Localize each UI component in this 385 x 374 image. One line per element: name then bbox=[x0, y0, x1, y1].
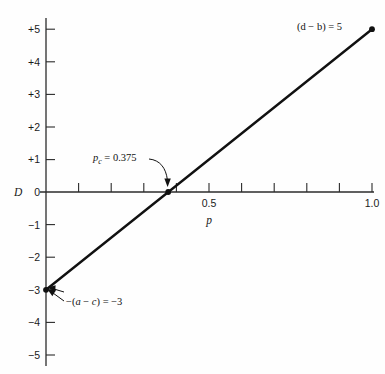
top-endpoint-annotation-label: (d − b) = 5 bbox=[297, 21, 342, 33]
bottom-endpoint-annotation-label: −(a − c) = −3 bbox=[66, 296, 122, 308]
pc-equals-value: = 0.375 bbox=[102, 152, 137, 163]
bottom-tail: ) = −3 bbox=[97, 296, 123, 308]
y-axis-title: D bbox=[13, 186, 23, 198]
y-axis-tick-labels: +5 +4 +3 +2 +1 0 −1 −2 −3 −4 −5 bbox=[28, 23, 40, 361]
x-axis-tick-labels: 0.5 1.0 bbox=[202, 197, 380, 209]
bottom-lead: −( bbox=[66, 296, 76, 308]
x-axis-title: p bbox=[205, 214, 212, 227]
y-label-minus3: −3 bbox=[28, 284, 40, 296]
x-axis-ticks bbox=[79, 183, 372, 192]
y-label-minus4: −4 bbox=[28, 316, 40, 328]
intercept-annotation-label: pc = 0.375 bbox=[92, 152, 137, 166]
y-label-plus2: +2 bbox=[28, 121, 40, 133]
x-label-one: 1.0 bbox=[365, 197, 380, 209]
y-label-minus2: −2 bbox=[28, 251, 40, 263]
top-endpoint-annotation: (d − b) = 5 bbox=[297, 21, 342, 33]
intercept-annotation: pc = 0.375 bbox=[92, 152, 171, 187]
intercept-annotation-arrowhead bbox=[164, 179, 170, 187]
data-point-root-intercept bbox=[165, 189, 171, 195]
y-label-zero: 0 bbox=[34, 186, 40, 198]
y-label-plus5: +5 bbox=[28, 23, 40, 35]
y-label-plus3: +3 bbox=[28, 88, 40, 100]
bottom-minus: − bbox=[81, 296, 92, 307]
data-point-upper-endpoint bbox=[369, 26, 375, 32]
chart-svg: +5 +4 +3 +2 +1 0 −1 −2 −3 −4 −5 D bbox=[0, 0, 385, 374]
axes-group bbox=[40, 18, 374, 366]
bottom-endpoint-annotation: −(a − c) = −3 bbox=[48, 285, 123, 308]
y-label-plus4: +4 bbox=[28, 56, 40, 68]
y-label-minus5: −5 bbox=[28, 349, 40, 361]
chart-figure: +5 +4 +3 +2 +1 0 −1 −2 −3 −4 −5 D bbox=[0, 0, 385, 374]
bottom-endpoint-annotation-arrow bbox=[53, 293, 64, 301]
y-label-plus1: +1 bbox=[28, 153, 40, 165]
top-endpoint-annotation-text: (d − b) = 5 bbox=[297, 21, 342, 33]
x-label-half: 0.5 bbox=[202, 197, 217, 209]
intercept-annotation-arrow bbox=[149, 159, 167, 180]
y-label-minus1: −1 bbox=[28, 219, 40, 231]
